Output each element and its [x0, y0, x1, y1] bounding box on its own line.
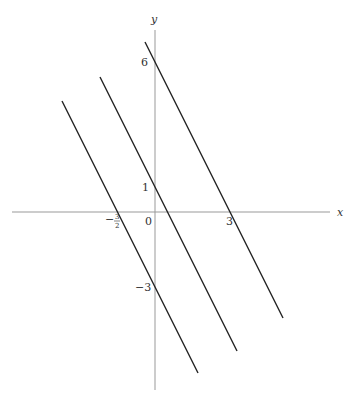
x-tick-3: 3 — [226, 215, 233, 228]
fraction-numerator: 3 — [115, 213, 119, 221]
fraction-denominator: 2 — [115, 222, 119, 230]
line-y-eq-neg2x-plus1 — [100, 77, 237, 351]
line-y-eq-neg2x-plus6 — [145, 42, 283, 318]
origin-label: 0 — [145, 215, 152, 228]
y-tick-6: 6 — [141, 56, 148, 69]
graph: x y 0 3 − 3 2 6 1 −3 — [0, 0, 361, 408]
y-axis-label: y — [150, 13, 158, 26]
y-tick-neg3: −3 — [135, 281, 151, 294]
x-axis-label: x — [337, 206, 344, 219]
line-y-eq-neg2x-minus3 — [62, 101, 198, 373]
y-tick-1: 1 — [142, 181, 149, 194]
x-tick-neg-three-halves: − 3 2 — [105, 213, 120, 230]
neg-sign: − — [105, 213, 114, 226]
